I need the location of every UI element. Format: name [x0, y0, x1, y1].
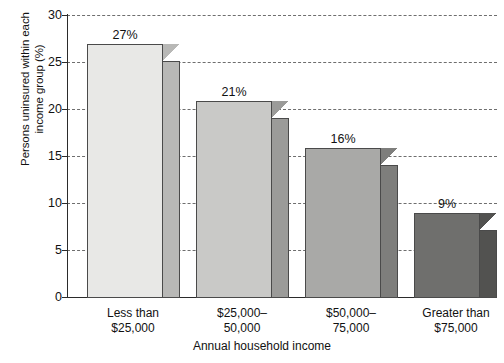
bar-side-face-2 [272, 118, 289, 298]
x-category-label-1: Less than $25,000 [73, 306, 193, 335]
bar-value-label-4: 9% [414, 198, 480, 211]
bar-top-face-4 [480, 213, 497, 230]
y-tick-label-10: 10 [32, 197, 62, 209]
x-category-label-2: $25,000– 50,000 [182, 306, 302, 335]
y-tick-label-15: 15 [32, 150, 62, 162]
bar-top-face-2 [272, 101, 289, 118]
bar-front-face-1 [87, 44, 163, 298]
bar-less-than-25000 [87, 25, 180, 298]
x-category-label-4: Greater than $75,000 [396, 306, 504, 335]
bar-50000-75000 [305, 129, 398, 298]
bar-front-face-2 [196, 101, 272, 298]
y-tick-label-5: 5 [32, 244, 62, 256]
x-category-label-3: $50,000– 75,000 [291, 306, 411, 335]
y-tick-label-25: 25 [32, 56, 62, 68]
bar-side-face-4 [480, 230, 497, 298]
y-tick-label-0: 0 [32, 291, 62, 303]
bar-value-label-3: 16% [305, 133, 381, 146]
bar-chart: Persons uninsured within each income gro… [0, 0, 504, 363]
bar-value-label-1: 27% [87, 29, 163, 42]
y-axis-line [67, 14, 68, 298]
bar-front-face-3 [305, 148, 381, 298]
y-tick-label-30: 30 [32, 9, 62, 21]
bar-front-face-4 [414, 213, 480, 298]
x-axis-title: Annual household income [142, 339, 382, 353]
y-tick-label-20: 20 [32, 103, 62, 115]
bar-top-face-3 [381, 148, 398, 165]
bar-side-face-3 [381, 165, 398, 298]
bar-top-face-1 [163, 44, 180, 61]
bar-25000-50000 [196, 82, 289, 298]
bar-side-face-1 [163, 61, 180, 298]
gridline-30 [67, 15, 497, 16]
bar-value-label-2: 21% [196, 86, 272, 99]
